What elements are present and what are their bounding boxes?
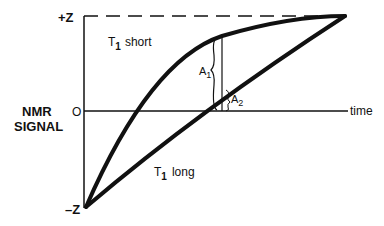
brace-a1 <box>211 38 217 110</box>
nmr-t1-recovery-diagram: +Z O –Z NMR SIGNAL time T1short T1long A… <box>0 0 384 226</box>
label-t1-long: T1long <box>154 165 195 182</box>
y-axis-title-line2: SIGNAL <box>14 119 63 134</box>
label-a1: A1 <box>199 65 211 80</box>
y-axis-title-line1: NMR <box>22 104 52 119</box>
label-a2: A2 <box>231 93 243 108</box>
y-tick-bottom: –Z <box>65 202 80 217</box>
y-tick-zero: O <box>72 105 81 119</box>
y-tick-top: +Z <box>58 10 74 25</box>
label-t1-short: T1short <box>108 35 152 52</box>
x-axis-label: time <box>350 104 373 118</box>
